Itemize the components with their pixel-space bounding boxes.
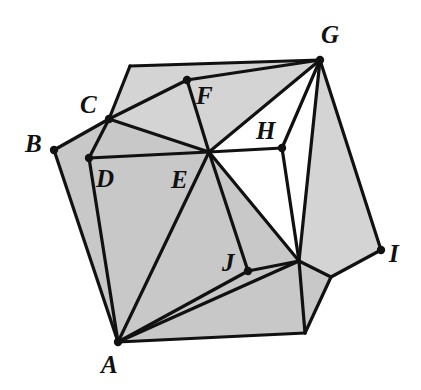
vertex-dot-i — [377, 246, 385, 254]
vertex-dot-j — [244, 267, 252, 275]
vertex-dot-c — [105, 115, 113, 123]
vertex-label-d: D — [95, 165, 114, 192]
vertex-label-c: C — [80, 91, 97, 118]
vertex-dot-d — [85, 154, 93, 162]
vertex-dot-g — [316, 56, 324, 64]
vertex-label-a: A — [99, 351, 118, 378]
diagram-canvas: ABCDEFGHIJ — [0, 0, 421, 390]
vertex-label-j: J — [221, 249, 236, 276]
vertex-dot-a — [114, 338, 122, 346]
vertex-label-b: B — [24, 130, 42, 157]
vertex-dot-b — [50, 146, 58, 154]
vertex-label-e: E — [170, 166, 188, 193]
vertex-dot-h — [278, 144, 286, 152]
edge-E-H — [209, 148, 282, 152]
face-right-wing — [299, 60, 381, 277]
vertex-label-f: F — [195, 82, 213, 109]
vertex-label-h: H — [255, 117, 277, 144]
polygon-mesh-figure: ABCDEFGHIJ — [0, 0, 421, 390]
vertex-label-i: I — [388, 240, 400, 267]
vertex-label-g: G — [321, 21, 339, 48]
vertex-dot-f — [183, 76, 191, 84]
